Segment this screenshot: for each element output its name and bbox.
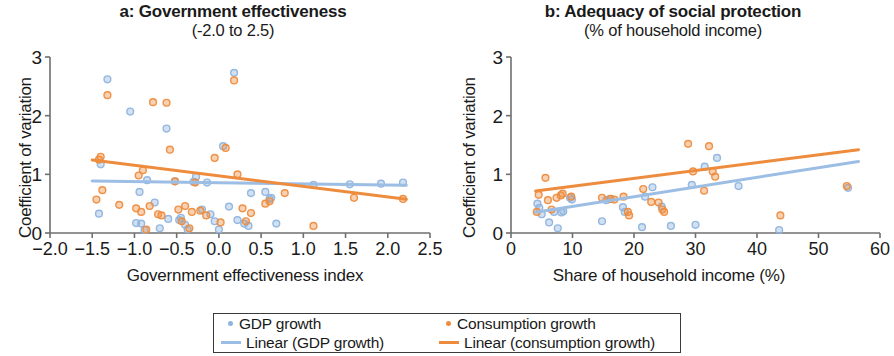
legend-label: Linear (consumption growth) xyxy=(464,334,655,352)
scatter-point xyxy=(273,220,280,227)
scatter-point xyxy=(222,145,229,152)
scatter-point xyxy=(197,207,204,214)
scatter-point xyxy=(310,223,317,230)
scatter-point xyxy=(163,99,170,106)
panel-a: a: Government effectiveness (-2.0 to 2.5… xyxy=(0,0,450,300)
scatter-point xyxy=(167,146,174,153)
scatter-point xyxy=(706,143,713,150)
scatter-point xyxy=(640,186,647,193)
scatter-point xyxy=(127,108,134,115)
scatter-point xyxy=(546,219,553,226)
panel-b-plot: 01230102030405060 xyxy=(444,0,894,300)
scatter-series xyxy=(93,77,406,233)
legend-item-linear-gdp-growth: Linear (GDP growth) xyxy=(224,334,442,352)
panel-b: b: Adequacy of social protection (% of h… xyxy=(444,0,894,300)
scatter-point xyxy=(626,212,633,219)
y-tick-label: 3 xyxy=(492,47,503,68)
legend-item-gdp-growth: GDP growth xyxy=(224,315,442,333)
scatter-point xyxy=(655,199,662,206)
x-tick-label: 40 xyxy=(747,239,767,259)
x-tick-label: 50 xyxy=(808,239,828,259)
legend-line-icon xyxy=(439,341,459,344)
scatter-point xyxy=(692,221,699,228)
scatter-point xyxy=(158,212,165,219)
scatter-point xyxy=(182,203,189,210)
scatter-point xyxy=(97,153,104,160)
scatter-point xyxy=(156,225,163,232)
scatter-series xyxy=(534,155,851,234)
scatter-point xyxy=(146,203,153,210)
scatter-series xyxy=(533,140,850,218)
x-tick-label: −0.5 xyxy=(159,239,195,259)
scatter-point xyxy=(351,194,358,201)
scatter-point xyxy=(150,99,157,106)
scatter-point xyxy=(559,190,566,197)
legend-label: Linear (GDP growth) xyxy=(246,334,384,352)
panel-a-plot: 0123−2.0−1.5−1.0−0.50.00.51.01.52.02.5 xyxy=(0,0,450,300)
scatter-point xyxy=(639,224,646,231)
scatter-point xyxy=(188,208,195,215)
x-tick-label: 20 xyxy=(624,239,644,259)
x-tick-label: −1.0 xyxy=(117,239,153,259)
scatter-point xyxy=(226,203,233,210)
x-tick-label: 1.5 xyxy=(333,239,358,259)
scatter-point xyxy=(93,196,100,203)
scatter-point xyxy=(217,219,224,226)
legend-dot-icon xyxy=(446,321,451,326)
scatter-point xyxy=(178,218,185,225)
scatter-point xyxy=(685,140,692,147)
x-tick-label: 30 xyxy=(685,239,705,259)
legend-item-linear-consumption-growth: Linear (consumption growth) xyxy=(442,334,692,352)
scatter-point xyxy=(165,216,172,223)
scatter-point xyxy=(104,76,111,83)
figure-container: a: Government effectiveness (-2.0 to 2.5… xyxy=(0,0,894,356)
scatter-point xyxy=(281,190,288,197)
scatter-point xyxy=(239,205,246,212)
scatter-point xyxy=(234,217,241,224)
y-tick-label: 3 xyxy=(31,47,42,68)
legend-label: GDP growth xyxy=(239,315,321,333)
y-tick-label: 1 xyxy=(31,164,42,185)
scatter-point xyxy=(554,225,561,232)
scatter-point xyxy=(535,191,542,198)
scatter-point xyxy=(163,125,170,132)
x-tick-label: 2.5 xyxy=(417,239,442,259)
scatter-point xyxy=(203,212,210,219)
scatter-point xyxy=(215,226,222,233)
legend-dot-icon xyxy=(228,321,233,326)
scatter-point xyxy=(266,198,273,205)
scatter-point xyxy=(231,77,238,84)
scatter-point xyxy=(545,197,552,204)
x-tick-label: 60 xyxy=(870,239,890,259)
y-tick-label: 1 xyxy=(492,164,503,185)
y-tick-label: 2 xyxy=(492,106,503,127)
scatter-point xyxy=(776,227,783,234)
scatter-point xyxy=(116,201,123,208)
trend-line xyxy=(92,181,406,185)
scatter-point xyxy=(648,199,655,206)
scatter-point xyxy=(777,212,784,219)
x-tick-label: 0 xyxy=(506,239,516,259)
scatter-point xyxy=(599,218,606,225)
scatter-point xyxy=(104,92,111,99)
y-tick-label: 2 xyxy=(31,106,42,127)
scatter-point xyxy=(661,208,668,215)
scatter-point xyxy=(712,173,719,180)
scatter-point xyxy=(99,187,106,194)
scatter-point xyxy=(175,206,182,213)
x-tick-label: 10 xyxy=(562,239,582,259)
scatter-point xyxy=(668,223,675,230)
scatter-point xyxy=(138,208,145,215)
legend-item-consumption-growth: Consumption growth xyxy=(442,315,692,333)
scatter-point xyxy=(542,174,549,181)
scatter-point xyxy=(186,225,193,232)
scatter-point xyxy=(568,193,575,200)
scatter-point xyxy=(649,184,656,191)
x-tick-label: 0.0 xyxy=(206,239,231,259)
scatter-point xyxy=(138,220,145,227)
x-tick-label: 2.0 xyxy=(375,239,400,259)
scatter-point xyxy=(248,190,255,197)
scatter-point xyxy=(136,189,143,196)
x-tick-label: 0.5 xyxy=(249,239,274,259)
scatter-point xyxy=(211,155,218,162)
